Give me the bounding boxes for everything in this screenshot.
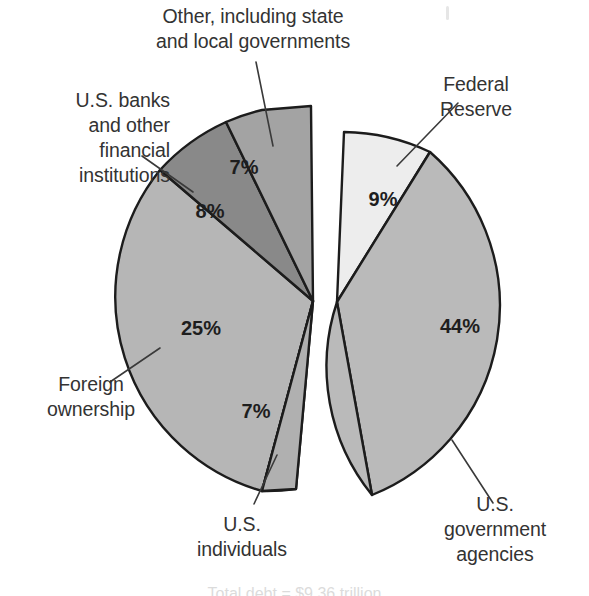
label-us-government-agencies: U.S. government agencies xyxy=(420,492,570,567)
value-us-banks-financial-institutions: 8% xyxy=(180,200,240,223)
label-federal-reserve: Federal Reserve xyxy=(404,72,548,122)
label-us-banks-financial-institutions: U.S. banks and other financial instituti… xyxy=(10,88,170,188)
label-us-individuals: U.S. individuals xyxy=(168,512,316,562)
label-foreign-ownership: Foreign ownership xyxy=(8,372,174,422)
figure-caption: Total debt = $9.36 trillion xyxy=(0,584,589,596)
pie-chart-figure: Other, including state and local governm… xyxy=(0,0,589,596)
label-other-state-local-governments: Other, including state and local governm… xyxy=(131,4,375,54)
value-foreign-ownership: 25% xyxy=(166,317,236,340)
value-other-state-local-governments: 7% xyxy=(214,156,274,179)
scan-artifact-speck xyxy=(446,6,449,20)
value-federal-reserve: 9% xyxy=(353,188,413,211)
value-us-government-agencies: 44% xyxy=(425,315,495,338)
value-us-individuals: 7% xyxy=(226,400,286,423)
